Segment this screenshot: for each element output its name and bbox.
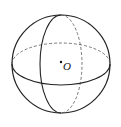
sphere-outline [12,15,110,113]
center-point [60,61,62,63]
equator-front [12,64,110,85]
center-label: O [63,60,71,72]
meridian-front [40,15,61,113]
sphere-diagram [0,0,121,127]
